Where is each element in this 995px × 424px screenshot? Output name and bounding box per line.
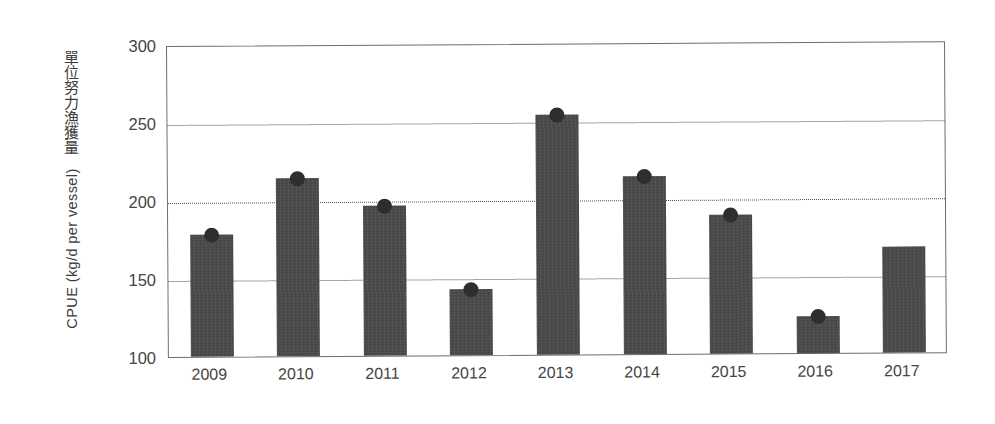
x-axis-tick-label: 2011 — [342, 365, 422, 383]
bar-2010 — [276, 178, 320, 356]
y-axis-tick-label: 100 — [110, 350, 156, 367]
x-axis-tick-label: 2013 — [515, 364, 595, 382]
data-point-marker-2013 — [549, 107, 564, 122]
bar-2017 — [882, 246, 926, 352]
y-axis-title-latin: CPUE (kg/d per vessel) — [64, 168, 80, 328]
y-axis-title-char: 單 — [64, 49, 79, 64]
x-axis-tick-label: 2009 — [169, 366, 249, 384]
bar-2011 — [363, 206, 407, 356]
y-axis-title-char: 努 — [64, 79, 79, 94]
y-axis-tick-labels: 300250200150100 — [110, 0, 156, 424]
chart-figure: CPUE (kg/d per vessel) 單位努力漁獲量 300250200… — [0, 0, 995, 424]
x-axis-tick-label: 2014 — [602, 363, 682, 381]
y-axis-tick-label: 200 — [110, 194, 156, 211]
x-axis-tick-label: 2010 — [256, 365, 336, 383]
y-axis-title-cjk: 單位努力漁獲量 — [64, 49, 79, 154]
x-axis-tick-label: 2015 — [689, 363, 769, 381]
plot-area — [166, 41, 947, 358]
y-axis-tick-label: 250 — [110, 116, 156, 133]
y-axis-tick-label: 300 — [110, 38, 156, 55]
data-point-marker-2014 — [636, 169, 651, 184]
x-axis-tick-label: 2016 — [775, 362, 855, 380]
y-axis-title: CPUE (kg/d per vessel) 單位努力漁獲量 — [52, 14, 92, 364]
y-axis-title-char: 力 — [64, 94, 79, 109]
x-axis-tick-labels: 200920102011201220132014201520162017 — [166, 362, 945, 396]
x-axis-tick-label: 2012 — [429, 364, 509, 382]
bar-2009 — [190, 235, 234, 357]
data-point-marker-2016 — [810, 309, 825, 324]
y-axis-title-char: 量 — [64, 139, 79, 154]
y-axis-title-char: 漁 — [64, 109, 79, 124]
y-axis-title-char: 位 — [64, 64, 79, 79]
bar-2015 — [709, 215, 753, 354]
y-axis-tick-label: 150 — [110, 272, 156, 289]
x-axis-tick-label: 2017 — [862, 362, 942, 380]
bar-2013 — [535, 114, 579, 354]
bar-2012 — [450, 289, 493, 355]
bar-2014 — [622, 176, 666, 354]
y-axis-title-char: 獲 — [64, 124, 79, 139]
